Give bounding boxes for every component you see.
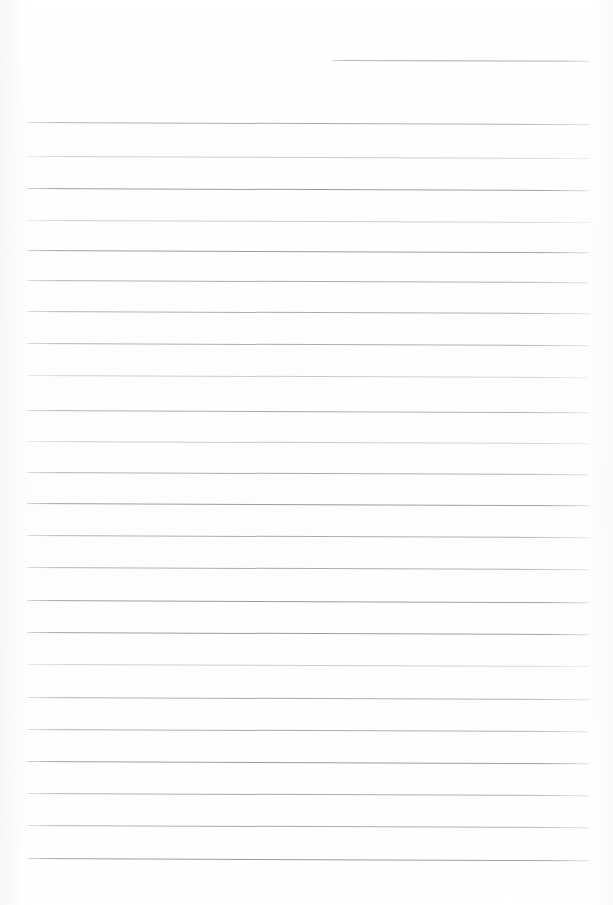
- scanned-page: [0, 0, 613, 905]
- page-text-content: [27, 52, 590, 862]
